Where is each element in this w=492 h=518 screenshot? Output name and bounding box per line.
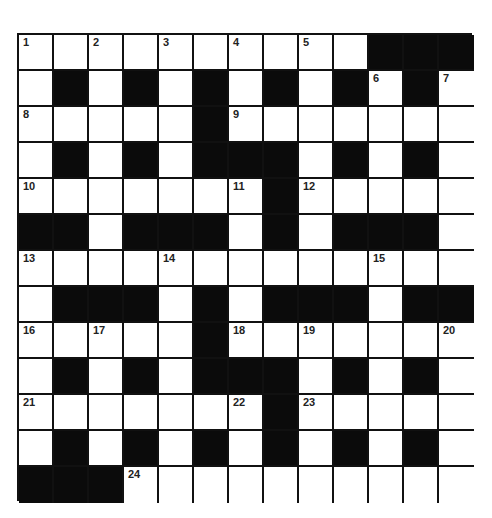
crossword-cell[interactable]: [124, 251, 159, 287]
crossword-cell[interactable]: [89, 395, 124, 431]
crossword-cell[interactable]: 14: [159, 251, 194, 287]
crossword-cell[interactable]: [124, 35, 159, 71]
crossword-cell[interactable]: [19, 143, 54, 179]
crossword-cell[interactable]: 19: [299, 323, 334, 359]
crossword-cell[interactable]: [19, 71, 54, 107]
crossword-cell[interactable]: [404, 395, 439, 431]
crossword-cell[interactable]: [264, 107, 299, 143]
crossword-cell[interactable]: [89, 143, 124, 179]
crossword-cell[interactable]: [334, 467, 369, 503]
crossword-cell[interactable]: [369, 287, 404, 323]
crossword-cell[interactable]: 18: [229, 323, 264, 359]
crossword-cell[interactable]: [54, 35, 89, 71]
crossword-cell[interactable]: 13: [19, 251, 54, 287]
crossword-cell[interactable]: [194, 35, 229, 71]
crossword-cell[interactable]: [334, 395, 369, 431]
crossword-cell[interactable]: [89, 251, 124, 287]
crossword-cell[interactable]: [404, 179, 439, 215]
crossword-cell[interactable]: [89, 107, 124, 143]
crossword-cell[interactable]: [404, 251, 439, 287]
crossword-cell[interactable]: 1: [19, 35, 54, 71]
crossword-cell[interactable]: 17: [89, 323, 124, 359]
crossword-cell[interactable]: [19, 287, 54, 323]
crossword-cell[interactable]: [194, 251, 229, 287]
crossword-cell[interactable]: [334, 251, 369, 287]
crossword-cell[interactable]: [159, 323, 194, 359]
crossword-cell[interactable]: [19, 431, 54, 467]
crossword-cell[interactable]: [439, 395, 474, 431]
crossword-cell[interactable]: [334, 179, 369, 215]
crossword-cell[interactable]: [54, 179, 89, 215]
crossword-cell[interactable]: [439, 143, 474, 179]
crossword-cell[interactable]: [334, 35, 369, 71]
crossword-cell[interactable]: 9: [229, 107, 264, 143]
crossword-cell[interactable]: [264, 251, 299, 287]
crossword-cell[interactable]: [369, 395, 404, 431]
crossword-cell[interactable]: [194, 467, 229, 503]
crossword-cell[interactable]: [159, 431, 194, 467]
crossword-cell[interactable]: [299, 467, 334, 503]
crossword-cell[interactable]: [369, 323, 404, 359]
crossword-cell[interactable]: [89, 71, 124, 107]
crossword-cell[interactable]: [369, 467, 404, 503]
crossword-cell[interactable]: [404, 323, 439, 359]
crossword-cell[interactable]: [194, 395, 229, 431]
crossword-cell[interactable]: [229, 215, 264, 251]
crossword-cell[interactable]: [369, 107, 404, 143]
crossword-cell[interactable]: [264, 467, 299, 503]
crossword-cell[interactable]: 8: [19, 107, 54, 143]
crossword-cell[interactable]: [334, 107, 369, 143]
crossword-cell[interactable]: [159, 467, 194, 503]
crossword-cell[interactable]: [124, 323, 159, 359]
crossword-cell[interactable]: [299, 251, 334, 287]
crossword-cell[interactable]: 23: [299, 395, 334, 431]
crossword-cell[interactable]: [89, 179, 124, 215]
crossword-cell[interactable]: [194, 179, 229, 215]
crossword-cell[interactable]: [299, 107, 334, 143]
crossword-cell[interactable]: [159, 359, 194, 395]
crossword-cell[interactable]: [299, 431, 334, 467]
crossword-cell[interactable]: [159, 143, 194, 179]
crossword-cell[interactable]: [439, 179, 474, 215]
crossword-cell[interactable]: [369, 179, 404, 215]
crossword-cell[interactable]: 3: [159, 35, 194, 71]
crossword-cell[interactable]: 4: [229, 35, 264, 71]
crossword-cell[interactable]: [159, 179, 194, 215]
crossword-cell[interactable]: [369, 143, 404, 179]
crossword-cell[interactable]: 12: [299, 179, 334, 215]
crossword-cell[interactable]: 22: [229, 395, 264, 431]
crossword-cell[interactable]: 15: [369, 251, 404, 287]
crossword-cell[interactable]: 2: [89, 35, 124, 71]
crossword-cell[interactable]: 7: [439, 71, 474, 107]
crossword-cell[interactable]: 11: [229, 179, 264, 215]
crossword-cell[interactable]: 20: [439, 323, 474, 359]
crossword-cell[interactable]: [124, 179, 159, 215]
crossword-cell[interactable]: [229, 431, 264, 467]
crossword-cell[interactable]: [229, 287, 264, 323]
crossword-cell[interactable]: [369, 359, 404, 395]
crossword-cell[interactable]: [159, 395, 194, 431]
crossword-cell[interactable]: [264, 323, 299, 359]
crossword-cell[interactable]: [19, 359, 54, 395]
crossword-cell[interactable]: [299, 359, 334, 395]
crossword-cell[interactable]: [369, 431, 404, 467]
crossword-cell[interactable]: [54, 251, 89, 287]
crossword-cell[interactable]: [124, 395, 159, 431]
crossword-cell[interactable]: [229, 251, 264, 287]
crossword-cell[interactable]: [159, 287, 194, 323]
crossword-cell[interactable]: 6: [369, 71, 404, 107]
crossword-cell[interactable]: [159, 71, 194, 107]
crossword-cell[interactable]: 5: [299, 35, 334, 71]
crossword-cell[interactable]: 21: [19, 395, 54, 431]
crossword-cell[interactable]: [334, 323, 369, 359]
crossword-cell[interactable]: [89, 431, 124, 467]
crossword-cell[interactable]: [439, 107, 474, 143]
crossword-cell[interactable]: 24: [124, 467, 159, 503]
crossword-cell[interactable]: [299, 71, 334, 107]
crossword-cell[interactable]: 16: [19, 323, 54, 359]
crossword-cell[interactable]: [229, 71, 264, 107]
crossword-cell[interactable]: [404, 467, 439, 503]
crossword-cell[interactable]: [439, 359, 474, 395]
crossword-cell[interactable]: [54, 323, 89, 359]
crossword-cell[interactable]: [124, 107, 159, 143]
